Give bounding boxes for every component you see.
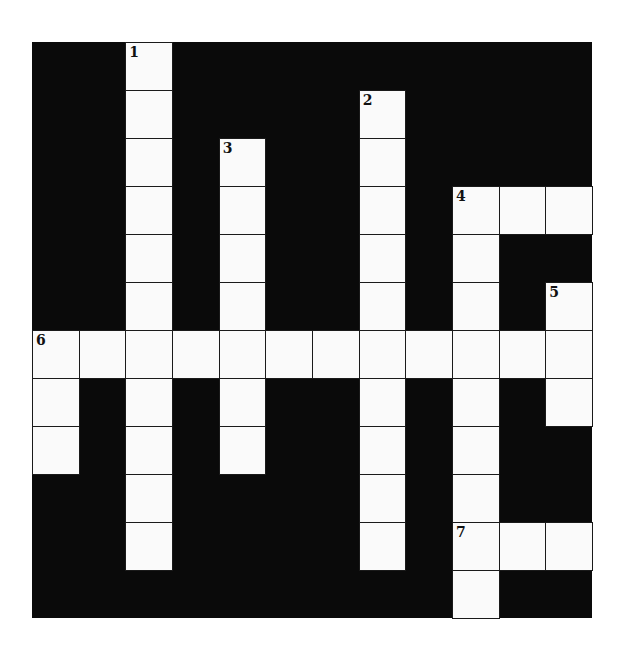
crossword-cell[interactable] [125, 90, 173, 139]
crossword-cell[interactable] [219, 282, 267, 331]
crossword-cell[interactable]: 2 [359, 90, 407, 139]
crossword-cell[interactable] [452, 330, 500, 379]
crossword-cell[interactable] [79, 330, 127, 379]
crossword-cell[interactable] [359, 330, 407, 379]
crossword-cell[interactable] [499, 330, 547, 379]
crossword-cell[interactable] [359, 426, 407, 475]
crossword-cell[interactable] [545, 378, 593, 427]
crossword-cell[interactable]: 3 [219, 138, 267, 187]
crossword-grid: 1234756 [32, 42, 592, 618]
clue-number: 4 [456, 189, 466, 203]
crossword-cell[interactable] [125, 522, 173, 571]
crossword-cell[interactable] [359, 138, 407, 187]
crossword-cell[interactable] [125, 282, 173, 331]
crossword-cell[interactable] [125, 474, 173, 523]
crossword-cell[interactable] [312, 330, 360, 379]
crossword-cell[interactable] [125, 378, 173, 427]
crossword-cell[interactable] [125, 234, 173, 283]
crossword-cell[interactable] [219, 330, 267, 379]
clue-number: 1 [129, 45, 139, 59]
crossword-cell[interactable] [359, 186, 407, 235]
crossword-cell[interactable]: 7 [452, 522, 500, 571]
crossword-cell[interactable] [452, 570, 500, 619]
crossword-cell[interactable] [265, 330, 313, 379]
clue-number: 6 [36, 333, 46, 347]
crossword-cell[interactable] [359, 282, 407, 331]
crossword-cell[interactable] [125, 330, 173, 379]
crossword-cell[interactable] [359, 378, 407, 427]
crossword-cell[interactable] [499, 522, 547, 571]
clue-number: 2 [363, 93, 373, 107]
crossword-cell[interactable] [125, 138, 173, 187]
crossword-cell[interactable] [219, 426, 267, 475]
crossword-cell[interactable]: 6 [32, 330, 80, 379]
crossword-cell[interactable] [499, 186, 547, 235]
crossword-cell[interactable] [172, 330, 220, 379]
crossword-cell[interactable] [125, 426, 173, 475]
crossword-cell[interactable] [359, 522, 407, 571]
crossword-cell[interactable] [452, 282, 500, 331]
crossword-cell[interactable] [545, 330, 593, 379]
crossword-cell[interactable]: 5 [545, 282, 593, 331]
clue-number: 5 [549, 285, 559, 299]
crossword-cell[interactable] [452, 234, 500, 283]
crossword-cell[interactable] [452, 378, 500, 427]
crossword-cell[interactable] [32, 378, 80, 427]
crossword-cell[interactable] [359, 234, 407, 283]
crossword-cell[interactable] [219, 378, 267, 427]
crossword-cell[interactable] [125, 186, 173, 235]
crossword-cell[interactable] [359, 474, 407, 523]
crossword-cell[interactable] [452, 474, 500, 523]
crossword-cell[interactable] [219, 186, 267, 235]
crossword-cell[interactable] [405, 330, 453, 379]
crossword-cell[interactable] [545, 186, 593, 235]
clue-number: 3 [223, 141, 233, 155]
crossword-cell[interactable] [545, 522, 593, 571]
crossword-cell[interactable]: 4 [452, 186, 500, 235]
crossword-cell[interactable] [32, 426, 80, 475]
clue-number: 7 [456, 525, 466, 539]
crossword-cell[interactable] [452, 426, 500, 475]
crossword-cell[interactable] [219, 234, 267, 283]
crossword-cell[interactable]: 1 [125, 42, 173, 91]
